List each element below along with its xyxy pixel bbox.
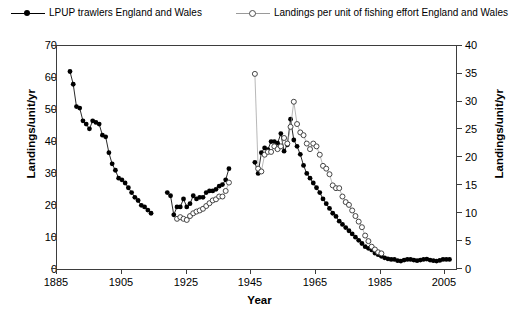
x-axis-tick-1905: 1905	[101, 277, 141, 288]
data-point-filled	[149, 211, 154, 216]
data-point-open	[308, 147, 313, 152]
open-circle-marker-icon	[236, 8, 270, 18]
data-point-filled	[304, 171, 309, 176]
y-axis-right-tick-15: 15	[465, 180, 477, 191]
data-point-filled	[295, 144, 300, 149]
data-point-open	[301, 133, 306, 138]
data-point-filled	[129, 190, 134, 195]
y-axis-right-tick-35: 35	[465, 68, 477, 79]
y-tick-mark-right-10	[457, 212, 462, 213]
y-axis-right-tick-10: 10	[465, 208, 477, 219]
y-axis-left-title: Landings/unit/yr	[26, 64, 38, 204]
y-tick-mark-right-35	[457, 73, 462, 74]
data-point-open	[340, 194, 345, 199]
x-axis-tick-1985: 1985	[360, 277, 400, 288]
x-axis-tick-1925: 1925	[166, 277, 206, 288]
data-point-filled	[103, 134, 108, 139]
data-point-open	[317, 152, 322, 157]
data-point-open	[226, 180, 231, 185]
data-point-filled	[282, 149, 287, 154]
y-axis-right-tick-5: 5	[465, 236, 471, 247]
data-point-filled	[311, 181, 316, 186]
data-point-open	[337, 186, 342, 191]
x-axis-tick-1965: 1965	[295, 277, 335, 288]
data-point-filled	[324, 201, 329, 206]
chart-figure: LPUP trawlers England and Wales Landings…	[0, 0, 519, 316]
data-point-filled	[107, 150, 112, 155]
data-point-filled	[291, 138, 296, 143]
x-axis-tick-1945: 1945	[230, 277, 270, 288]
data-point-filled	[317, 190, 322, 195]
x-axis-tick-1885: 1885	[36, 277, 76, 288]
y-tick-mark-right-40	[457, 45, 462, 46]
data-point-open	[259, 169, 264, 174]
legend-entry-lpue: Landings per unit of fishing effort Engl…	[236, 8, 508, 18]
data-point-filled	[314, 185, 319, 190]
data-point-filled	[110, 161, 115, 166]
data-point-filled	[87, 126, 92, 131]
y-tick-mark-right-20	[457, 156, 462, 157]
legend-label-lpue: Landings per unit of fishing effort Engl…	[274, 8, 508, 18]
data-point-filled	[168, 193, 173, 198]
y-axis-right-tick-40: 40	[465, 40, 477, 51]
y-axis-right-tick-0: 0	[465, 264, 471, 275]
data-point-open	[282, 135, 287, 140]
data-point-filled	[288, 117, 293, 122]
data-point-filled	[327, 206, 332, 211]
data-point-open	[288, 124, 293, 129]
data-point-filled	[201, 195, 206, 200]
data-point-filled	[301, 163, 306, 168]
y-tick-mark-right-30	[457, 101, 462, 102]
data-point-open	[363, 233, 368, 238]
data-point-open	[379, 251, 384, 256]
legend-label-lpup: LPUP trawlers England and Wales	[49, 8, 202, 18]
data-point-filled	[113, 168, 118, 173]
plot-area	[56, 45, 457, 270]
legend-entry-lpup: LPUP trawlers England and Wales	[11, 8, 202, 18]
data-point-filled	[181, 197, 186, 202]
data-point-open	[314, 144, 319, 149]
y-tick-mark-right-25	[457, 128, 462, 129]
data-point-filled	[334, 214, 339, 219]
data-point-filled	[123, 181, 128, 186]
data-point-filled	[126, 185, 131, 190]
data-point-open	[223, 188, 228, 193]
series-lpue	[175, 71, 384, 256]
data-point-open	[356, 219, 361, 224]
data-point-open	[278, 144, 283, 149]
chart-legend: LPUP trawlers England and Wales Landings…	[0, 3, 519, 23]
data-point-open	[291, 99, 296, 104]
data-point-filled	[71, 82, 76, 87]
y-axis-right-tick-30: 30	[465, 96, 477, 107]
data-point-filled	[84, 122, 89, 127]
data-point-filled	[97, 122, 102, 127]
data-point-open	[346, 202, 351, 207]
y-axis-right-tick-20: 20	[465, 152, 477, 163]
data-point-open	[324, 166, 329, 171]
y-axis-right-title: Landings/unit/yr	[494, 64, 506, 204]
data-point-filled	[278, 131, 283, 136]
y-axis-right-tick-25: 25	[465, 124, 477, 135]
series-line	[70, 71, 151, 213]
y-tick-mark-right-15	[457, 184, 462, 185]
data-point-open	[359, 225, 364, 230]
data-point-open	[295, 122, 300, 127]
data-point-open	[304, 141, 309, 146]
x-axis-tick-2005: 2005	[424, 277, 464, 288]
data-series-canvas	[57, 46, 456, 269]
data-point-open	[366, 239, 371, 244]
y-tick-mark-right-0	[457, 268, 462, 269]
data-point-open	[353, 214, 358, 219]
data-point-filled	[298, 152, 303, 157]
data-point-filled	[227, 166, 232, 171]
x-axis-title: Year	[0, 295, 519, 307]
data-point-filled	[77, 106, 82, 111]
data-point-open	[327, 172, 332, 177]
data-point-filled	[220, 182, 225, 187]
filled-circle-marker-icon	[11, 8, 45, 18]
data-point-open	[252, 71, 257, 76]
data-point-filled	[188, 201, 193, 206]
data-point-open	[220, 194, 225, 199]
data-point-filled	[308, 176, 313, 181]
data-point-filled	[252, 160, 257, 165]
